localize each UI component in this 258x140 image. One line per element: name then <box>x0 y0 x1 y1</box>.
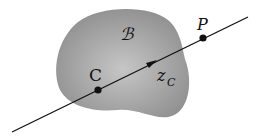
axis-label-subscript: C <box>167 76 176 89</box>
point-P-dot <box>199 34 206 41</box>
body-label: ℬ <box>120 24 135 44</box>
axis-label: z <box>156 66 166 85</box>
rigid-body-diagram: ℬ C P z C <box>0 0 258 140</box>
point-P-label: P <box>196 15 208 34</box>
point-C-label: C <box>89 65 102 85</box>
point-C-dot <box>94 86 101 93</box>
